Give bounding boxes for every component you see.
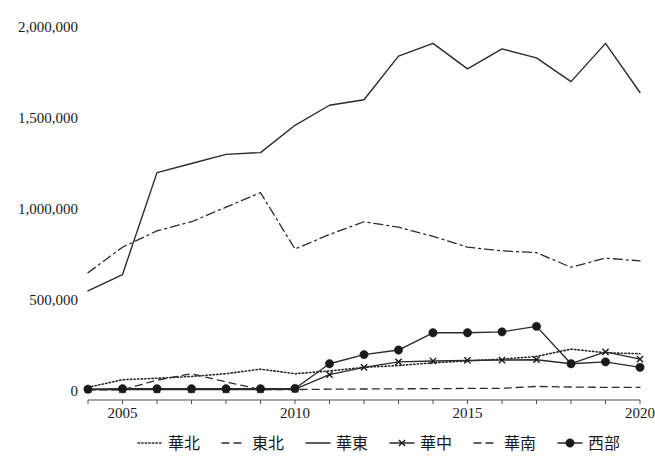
legend-label-華中: 華中: [420, 435, 452, 452]
line-chart: 0500,0001,000,0001,500,0002,000,000 2005…: [0, 0, 655, 475]
chart-legend: 華北東北華東華中華南西部: [138, 435, 620, 452]
legend-item-東北[interactable]: 東北: [222, 435, 284, 452]
legend-item-華北[interactable]: 華北: [138, 435, 200, 452]
series-line-華南: [88, 374, 640, 390]
legend-label-華南: 華南: [504, 435, 536, 452]
series-marker-5-7: [325, 360, 333, 368]
x-tick-label-1: 2010: [280, 405, 310, 421]
y-tick-label-0: 0: [71, 383, 79, 399]
y-tick-label-3: 1,500,000: [18, 110, 78, 126]
x-axis-line: [88, 400, 640, 404]
series-marker-5-14: [567, 360, 575, 368]
y-tick-label-1: 500,000: [29, 292, 78, 308]
series-marker-5-13: [532, 322, 540, 330]
legend-item-西部[interactable]: 西部: [558, 435, 620, 452]
legend-item-華南[interactable]: 華南: [474, 435, 536, 452]
series-1: [88, 193, 640, 273]
legend-label-西部: 西部: [588, 435, 620, 452]
series-marker-5-4: [222, 385, 230, 393]
y-axis-tick-labels: 0500,0001,000,0001,500,0002,000,000: [18, 19, 78, 399]
legend-label-東北: 東北: [252, 435, 284, 452]
legend-label-華北: 華北: [168, 435, 200, 452]
x-tick-label-3: 2020: [625, 405, 655, 421]
series-5: [84, 322, 644, 393]
x-axis-tick-labels: 2005201020152020: [108, 405, 655, 421]
legend-item-華中[interactable]: 華中: [390, 435, 452, 452]
series-2: [88, 43, 640, 291]
series-marker-5-1: [118, 385, 126, 393]
legend-marker-西部: [566, 439, 574, 447]
series-marker-5-16: [636, 363, 644, 371]
series-4: [88, 374, 640, 390]
series-marker-5-11: [463, 329, 471, 337]
series-marker-5-15: [601, 358, 609, 366]
series-marker-5-2: [153, 385, 161, 393]
legend-item-華東[interactable]: 華東: [306, 435, 368, 452]
series-marker-5-12: [498, 328, 506, 336]
chart-page: 0500,0001,000,0001,500,0002,000,000 2005…: [0, 0, 655, 475]
series-marker-5-0: [84, 385, 92, 393]
series-marker-5-10: [429, 329, 437, 337]
series-marker-5-8: [360, 350, 368, 358]
series-marker-5-6: [291, 384, 299, 392]
x-tick-label-0: 2005: [108, 405, 138, 421]
plot-series-group: [84, 43, 644, 393]
series-marker-5-5: [256, 385, 264, 393]
series-marker-5-9: [394, 346, 402, 354]
series-line-華東: [88, 43, 640, 291]
series-marker-5-3: [187, 385, 195, 393]
legend-label-華東: 華東: [336, 435, 368, 452]
y-tick-label-2: 1,000,000: [18, 201, 78, 217]
series-line-東北: [88, 193, 640, 273]
y-tick-label-4: 2,000,000: [18, 19, 78, 35]
x-tick-label-2: 2015: [453, 405, 483, 421]
